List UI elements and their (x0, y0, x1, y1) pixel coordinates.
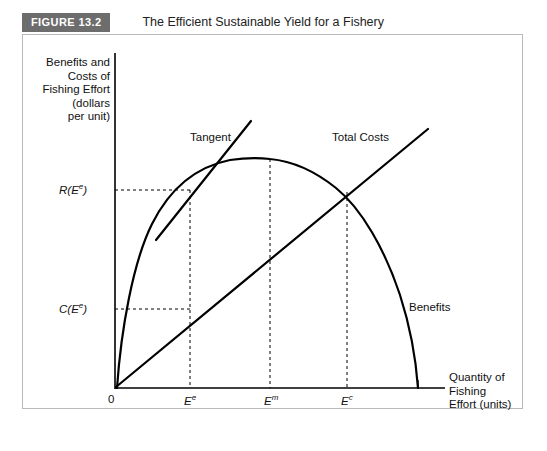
y-tick-label-cost: C(Ee) (59, 301, 87, 315)
y-axis-title-line-4: (dollars (28, 97, 110, 111)
x-tick-label-E-open-access: Ec (341, 393, 353, 407)
curve-label-tangent: Tangent (190, 131, 231, 145)
x-tick-Ec-sup: c (349, 393, 353, 402)
y-tick-revenue-base: R(E (59, 184, 79, 196)
y-tick-cost-end: ) (83, 303, 87, 315)
x-tick-Ec-base: E (341, 395, 349, 407)
curve-label-benefits: Benefits (409, 301, 451, 315)
figure-container: FIGURE 13.2 The Efficient Sustainable Yi… (0, 0, 547, 451)
x-tick-label-origin: 0 (108, 393, 114, 405)
figure-number-badge: FIGURE 13.2 (22, 13, 110, 32)
y-axis-title-line-1: Benefits and (28, 56, 110, 70)
figure-caption: The Efficient Sustainable Yield for a Fi… (142, 15, 384, 29)
figure-header: FIGURE 13.2 The Efficient Sustainable Yi… (22, 10, 525, 34)
y-tick-label-revenue: R(Ee) (59, 182, 87, 196)
x-axis-title-line-1: Quantity of (449, 371, 539, 385)
y-axis-title-line-2: Costs of (28, 70, 110, 84)
y-tick-revenue-end: ) (83, 184, 87, 196)
x-tick-Em-base: E (264, 395, 272, 407)
x-tick-label-E-efficient: Ee (184, 393, 196, 407)
x-axis-title-line-3: Effort (units) (449, 398, 539, 412)
y-tick-cost-base: C(E (59, 303, 79, 315)
x-axis-title-line-2: Fishing (449, 385, 539, 399)
y-axis-title-line-5: per unit) (28, 110, 110, 124)
x-tick-Ee-sup: e (192, 393, 196, 402)
curve-label-total-costs: Total Costs (332, 131, 389, 145)
x-axis-title: Quantity of Fishing Effort (units) (449, 371, 539, 412)
x-tick-Ee-base: E (184, 395, 192, 407)
x-tick-Em-sup: m (272, 393, 279, 402)
y-axis-title-line-3: Fishing Effort (28, 83, 110, 97)
y-axis-title: Benefits and Costs of Fishing Effort (do… (28, 56, 110, 124)
x-tick-label-E-msy: Em (264, 393, 278, 407)
